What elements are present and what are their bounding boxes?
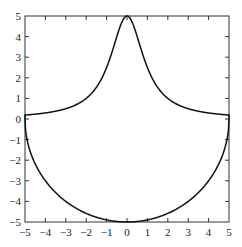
y-tick-label: 0: [16, 113, 22, 125]
y-tick-label: −1: [9, 134, 21, 146]
y-axis-tick-labels: −5−4−3−2−1012345: [9, 10, 21, 228]
y-tick-label: 4: [16, 31, 22, 43]
x-tick-label: 0: [124, 226, 130, 238]
lower-curve: [25, 119, 229, 222]
x-tick-label: −2: [80, 226, 92, 238]
y-tick-label: 5: [16, 10, 22, 22]
x-tick-label: 1: [145, 226, 151, 238]
x-tick-label: 4: [206, 226, 212, 238]
axis-ticks: [25, 16, 229, 222]
x-tick-label: −4: [40, 226, 52, 238]
y-tick-label: −5: [9, 216, 21, 228]
y-tick-label: 2: [16, 72, 22, 84]
y-tick-label: −2: [9, 154, 21, 166]
upper-curve: [25, 16, 229, 119]
chart: −5−4−3−2−1012345 −5−4−3−2−1012345: [0, 0, 242, 247]
y-tick-label: 1: [16, 92, 22, 104]
x-tick-label: −3: [60, 226, 72, 238]
x-tick-label: 3: [185, 226, 191, 238]
y-tick-label: −3: [9, 175, 21, 187]
y-tick-label: −4: [9, 195, 21, 207]
x-tick-label: −1: [101, 226, 113, 238]
x-axis-tick-labels: −5−4−3−2−1012345: [19, 226, 232, 238]
plot-frame: [25, 16, 229, 222]
x-tick-label: 5: [226, 226, 232, 238]
x-tick-label: 2: [165, 226, 171, 238]
y-tick-label: 3: [16, 51, 22, 63]
